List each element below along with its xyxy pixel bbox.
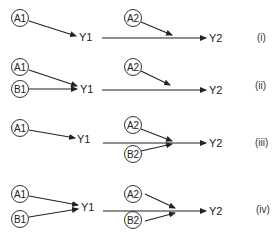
node-b2: B2 [125, 212, 142, 229]
node-a2-label: A2 [127, 62, 140, 73]
edge-b1-y1 [29, 209, 78, 217]
node-b1-label: B1 [14, 214, 27, 225]
node-a2: A2 [125, 186, 142, 203]
node-a1: A1 [12, 59, 29, 76]
node-b2-label: B2 [127, 215, 140, 226]
edge-a2-main [141, 129, 172, 141]
edge-a1-y1 [29, 196, 78, 205]
causal-diagram: A1 Y1 A2 Y2 (i) A1 B1 Y1 A2 Y2 (ii [0, 0, 280, 239]
edge-a1-y1 [29, 130, 75, 138]
panel-ii: A1 B1 Y1 A2 Y2 (ii) [12, 59, 267, 98]
node-a2: A2 [125, 59, 142, 76]
node-a2: A2 [125, 10, 142, 27]
edge-a2-main [145, 194, 175, 208]
edge-a1-y1 [29, 21, 76, 36]
panel-iv: A1 B1 Y1 A2 B2 Y2 (iv) [12, 186, 270, 229]
panel-label: (ii) [255, 80, 266, 91]
node-y1-label: Y1 [80, 83, 93, 95]
node-a1: A1 [12, 186, 29, 203]
panel-label: (iv) [256, 204, 270, 215]
panel-label: (iii) [255, 137, 268, 148]
node-a2-label: A2 [127, 189, 140, 200]
panel-iii: A1 Y1 A2 B2 Y2 (iii) [12, 117, 269, 163]
node-b2-label: B2 [127, 149, 140, 160]
node-y1-label: Y1 [77, 133, 90, 145]
edge-a2-main [141, 71, 170, 85]
node-a2-label: A2 [127, 120, 140, 131]
edge-a2-main [141, 22, 172, 35]
node-y2-label: Y2 [209, 32, 222, 44]
node-b1-label: B1 [14, 84, 27, 95]
node-y1-label: Y1 [79, 31, 92, 43]
node-a1-label: A1 [14, 13, 27, 24]
node-b1: B1 [12, 81, 29, 98]
node-a1-label: A1 [14, 123, 27, 134]
node-a2: A2 [125, 117, 142, 134]
node-a1: A1 [12, 120, 29, 137]
node-a1: A1 [12, 10, 29, 27]
edge-b2-main [145, 213, 175, 221]
node-b2: B2 [125, 146, 142, 163]
node-a1-label: A1 [14, 189, 27, 200]
node-a2-label: A2 [127, 13, 140, 24]
node-y1-label: Y1 [81, 201, 94, 213]
node-b1: B1 [12, 211, 29, 228]
node-y2-label: Y2 [209, 205, 222, 217]
node-y2-label: Y2 [209, 84, 222, 96]
panel-label: (i) [257, 32, 266, 43]
edge-a1-y1 [29, 70, 77, 86]
panel-i: A1 Y1 A2 Y2 (i) [12, 10, 266, 45]
edge-b2-main [141, 144, 172, 151]
node-y2-label: Y2 [209, 137, 222, 149]
node-a1-label: A1 [14, 62, 27, 73]
